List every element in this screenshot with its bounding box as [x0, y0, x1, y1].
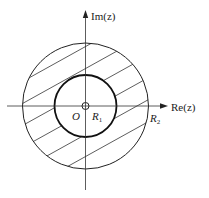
imag-axis-label: Im(z) — [91, 10, 116, 23]
r2-label: R2 — [149, 112, 161, 126]
annulus-diagram: Im(z) Re(z) O R1 R2 — [0, 0, 209, 198]
origin-label: O — [72, 110, 80, 122]
real-axis-arrow-icon — [160, 103, 168, 108]
imag-axis-arrow-icon — [83, 10, 88, 18]
real-axis-label: Re(z) — [171, 101, 196, 114]
